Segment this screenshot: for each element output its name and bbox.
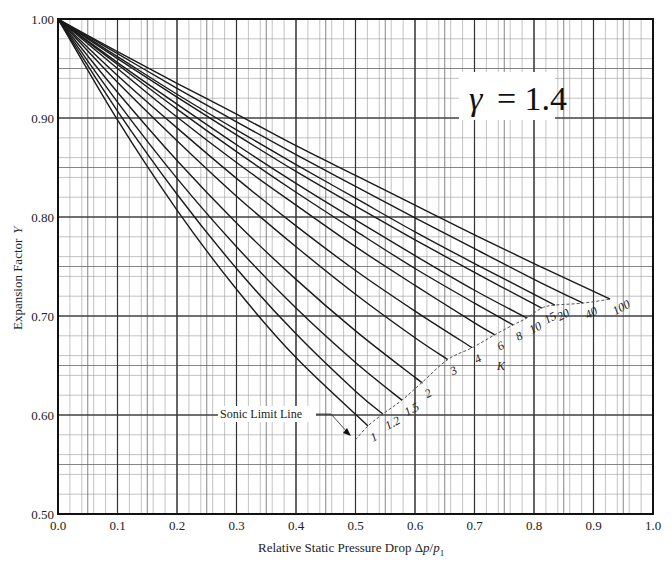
sonic-limit-annotation: Sonic Limit Line [218, 406, 351, 436]
y-tick-label: 0.90 [31, 111, 54, 126]
gamma-value: = 1.4 [497, 80, 567, 117]
y-tick-label: 1.00 [31, 12, 54, 27]
k-curve-1-5 [58, 19, 402, 400]
k-label: 2 [422, 386, 434, 401]
y-tick-label: 0.50 [31, 507, 54, 522]
k-label: 1.5 [402, 399, 422, 418]
expansion-factor-chart: 11.21.52346810152040100 0.00.10.20.30.40… [0, 0, 672, 564]
x-tick-label: 1.0 [645, 518, 661, 533]
x-tick-labels: 0.00.10.20.30.40.50.60.70.80.91.0 [50, 518, 661, 533]
x-tick-label: 0.6 [407, 518, 424, 533]
x-tick-label: 0.7 [466, 518, 483, 533]
k-label: 40 [583, 304, 600, 322]
gamma-annotation: γ = 1.4 [459, 72, 567, 120]
k-label: 1.2 [383, 413, 403, 432]
svg-text:γ = 1.4: γ = 1.4 [469, 80, 567, 117]
gamma-symbol: γ [469, 80, 484, 117]
x-tick-label: 0.4 [288, 518, 305, 533]
y-tick-label: 0.70 [31, 309, 54, 324]
x-tick-label: 0.9 [585, 518, 601, 533]
y-tick-label: 0.60 [31, 408, 54, 423]
x-tick-label: 0.8 [526, 518, 542, 533]
k-axis-label: K [496, 359, 506, 373]
x-axis-title: Relative Static Pressure Drop Δp/p1 [258, 540, 444, 558]
x-tick-label: 0.5 [347, 518, 363, 533]
y-tick-label: 0.80 [31, 210, 54, 225]
k-label: 6 [495, 338, 507, 353]
y-axis-title: Expansion FactorY [10, 225, 25, 330]
k-label: 4 [472, 351, 484, 366]
sonic-limit-label: Sonic Limit Line [220, 407, 302, 421]
k-label: 1 [368, 429, 380, 444]
k-label: 10 [527, 319, 544, 337]
k-curve-100 [58, 19, 610, 299]
x-tick-label: 0.3 [228, 518, 244, 533]
y-tick-labels: 0.500.600.700.800.901.00 [31, 12, 54, 522]
k-curve-15 [58, 19, 542, 308]
x-tick-label: 0.1 [109, 518, 125, 533]
x-tick-label: 0.2 [169, 518, 185, 533]
